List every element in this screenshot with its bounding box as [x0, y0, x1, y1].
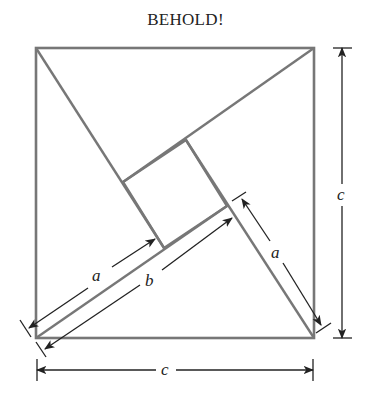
dimension-c-bottom: c [37, 359, 313, 381]
label-a-left: a [92, 266, 101, 285]
label-c-right: c [337, 185, 345, 204]
inner-square [123, 140, 227, 248]
label-c-bottom: c [161, 360, 169, 379]
behold-pythagorean-proof-figure: BEHOLD! a b [0, 0, 371, 398]
label-b: b [145, 271, 154, 290]
label-a-right: a [271, 243, 280, 262]
diagram-canvas: a b a c [0, 0, 371, 398]
dimension-c-right: c [333, 48, 352, 338]
dimension-b: b [36, 218, 232, 357]
dimension-a-right: a [232, 192, 331, 333]
